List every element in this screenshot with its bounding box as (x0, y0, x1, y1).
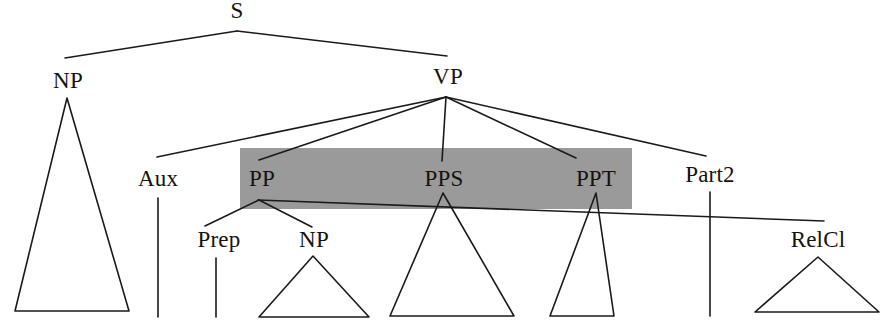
node-label-s: S (231, 0, 244, 22)
triangle-pps (390, 193, 514, 316)
triangle-relcl (755, 257, 879, 312)
triangle-np-object (259, 256, 369, 317)
syntax-tree-figure: S NP VP Aux PP PPS PPT Part2 Prep NP Rel… (0, 0, 890, 326)
node-label-part2: Part2 (685, 163, 735, 186)
edge-pp-prep (205, 200, 259, 226)
tree-graphics (0, 0, 890, 326)
node-label-np-object: NP (299, 228, 329, 251)
node-label-pp: PP (249, 167, 275, 190)
node-label-ppt: PPT (576, 167, 616, 190)
node-label-relcl: RelCl (791, 228, 846, 251)
node-label-vp: VP (433, 65, 463, 88)
triangle-np-subject (15, 98, 129, 311)
node-label-pps: PPS (425, 167, 464, 190)
edge-s-vp (237, 31, 447, 56)
node-label-prep: Prep (198, 228, 241, 251)
node-label-aux: Aux (138, 167, 178, 190)
node-label-np-subject: NP (53, 69, 83, 92)
edge-vp-part2 (446, 97, 706, 156)
edge-s-np (65, 31, 237, 58)
